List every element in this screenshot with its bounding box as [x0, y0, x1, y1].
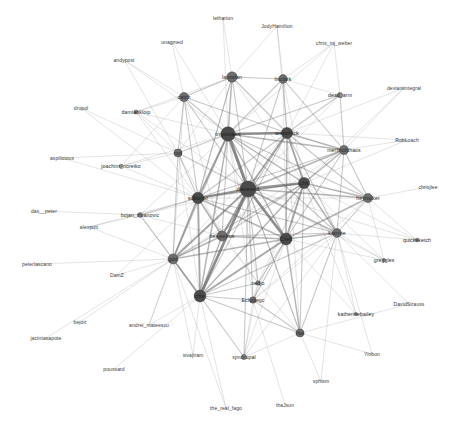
graph-edge [300, 333, 321, 381]
graph-edge [287, 88, 404, 133]
graph-node[interactable] [179, 92, 188, 101]
graph-edge [344, 150, 368, 198]
graph-edge [340, 95, 344, 150]
graph-edge [172, 42, 184, 97]
graph-edge [124, 60, 184, 97]
graph-edge [304, 183, 384, 260]
graph-node[interactable] [337, 92, 342, 97]
graph-edge [244, 333, 300, 357]
graph-edge [80, 259, 173, 322]
graph-edge [248, 95, 340, 189]
graph-node[interactable] [363, 193, 372, 202]
graph-edge [222, 236, 258, 283]
graph-edge [287, 43, 334, 133]
graph-node[interactable] [298, 177, 309, 188]
graph-svg [0, 0, 452, 428]
graph-node[interactable] [382, 258, 385, 261]
graph-edge [258, 239, 286, 283]
graph-edge [149, 296, 200, 325]
graph-node[interactable] [339, 145, 348, 154]
graph-edge [37, 259, 173, 264]
graph-edge [304, 183, 356, 314]
graph-edge [124, 60, 228, 134]
graph-node[interactable] [227, 72, 237, 82]
graph-node[interactable] [119, 164, 123, 168]
graph-node[interactable] [174, 149, 182, 157]
graph-node[interactable] [217, 231, 227, 241]
graph-edge [253, 300, 285, 405]
graph-node[interactable] [415, 238, 419, 242]
graph-node[interactable] [279, 75, 288, 84]
graph-edge [244, 283, 258, 357]
graph-edge [44, 211, 140, 215]
graph-edge [228, 133, 287, 134]
graph-edge [149, 259, 173, 325]
graph-edge [200, 134, 228, 296]
graph-edge [283, 79, 340, 95]
graph-node[interactable] [354, 312, 357, 315]
graph-edge [232, 26, 277, 77]
graph-edge [344, 140, 407, 150]
graph-edge [244, 189, 248, 357]
graph-edge [200, 296, 244, 357]
graph-edge [283, 43, 334, 79]
graph-node[interactable] [241, 354, 246, 359]
network-graph-canvas[interactable]: letharionJodyHamiltonunagmedchris_mj_web… [0, 0, 452, 428]
graph-node[interactable] [221, 127, 235, 141]
graph-edge [368, 187, 428, 198]
graph-node[interactable] [134, 110, 138, 114]
graph-node[interactable] [240, 181, 256, 197]
graph-edge [136, 112, 178, 153]
graph-edge [334, 43, 340, 95]
graph-edge [232, 77, 287, 133]
graph-edge [89, 198, 198, 227]
graph-edge [232, 77, 283, 79]
graph-edge [121, 97, 184, 166]
graph-node[interactable] [250, 297, 256, 303]
graph-edge [244, 233, 337, 357]
graph-edge [200, 296, 226, 408]
graph-node[interactable] [256, 281, 260, 285]
graph-edge [173, 189, 248, 259]
graph-node[interactable] [296, 329, 304, 337]
graph-edge [300, 333, 372, 354]
graph-node[interactable] [194, 290, 206, 302]
graph-node[interactable] [281, 127, 292, 138]
graph-node[interactable] [192, 192, 204, 204]
graph-node[interactable] [333, 229, 342, 238]
graph-node[interactable] [280, 233, 292, 245]
graph-edge [337, 198, 368, 233]
graph-edge [140, 134, 228, 215]
graph-edge [46, 259, 173, 338]
graph-edge [124, 60, 178, 153]
graph-edge [344, 88, 404, 150]
graph-node[interactable] [168, 254, 178, 264]
graph-node[interactable] [138, 213, 143, 218]
graph-edge [114, 296, 200, 369]
